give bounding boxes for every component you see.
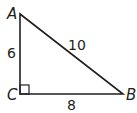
vertex-label-b: B <box>126 86 136 104</box>
triangle-diagram: A B C 6 10 8 <box>0 0 137 113</box>
vertex-label-c: C <box>7 86 18 104</box>
side-label-ab: 10 <box>68 37 86 53</box>
vertex-label-a: A <box>6 5 17 23</box>
right-angle-marker <box>20 85 29 94</box>
side-label-cb: 8 <box>67 97 76 113</box>
side-label-ac: 6 <box>7 45 16 61</box>
triangle-abc <box>20 14 123 94</box>
